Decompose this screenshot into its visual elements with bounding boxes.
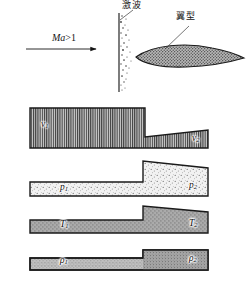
density-upstream-label: ρ1	[60, 256, 68, 266]
temperature-downstream-label: T2	[189, 219, 198, 229]
shock-wave-stipple	[120, 15, 131, 90]
airfoil-label: 翼型	[176, 12, 196, 21]
temperature-profile-panel	[30, 206, 208, 233]
pressure-subscript-2: 2	[194, 183, 197, 190]
velocity-subscript-1: 1	[45, 122, 48, 129]
temperature-upstream-label: T1	[60, 220, 69, 230]
velocity-upstream-label: v1	[41, 120, 48, 130]
velocity-profile-panel	[30, 108, 208, 148]
mach-number-inequality: >1	[65, 32, 76, 43]
density-subscript-1: 1	[65, 258, 68, 265]
shock-wave-label: 激波	[122, 1, 142, 10]
mach-number-label: Ma>1	[52, 33, 76, 43]
airfoil-shape	[136, 45, 244, 67]
pressure-upstream-label: p1	[60, 183, 68, 193]
velocity-downstream-label: v2	[192, 134, 199, 144]
pressure-downstream-label: p2	[189, 181, 197, 191]
density-subscript-2: 2	[194, 256, 197, 263]
shock-wave-leader-line	[120, 10, 133, 20]
pressure-profile-panel	[30, 161, 208, 196]
shock-wave-property-figure	[0, 0, 252, 291]
pressure-subscript-1: 1	[65, 185, 68, 192]
shock-wave-line	[119, 13, 132, 92]
velocity-subscript-2: 2	[196, 136, 199, 143]
density-profile-panel	[30, 250, 208, 270]
density-downstream-label: ρ2	[189, 254, 197, 264]
mach-number-symbol: Ma	[52, 32, 65, 43]
temperature-subscript-1: 1	[65, 222, 68, 229]
flow-scene	[26, 10, 244, 92]
temperature-subscript-2: 2	[194, 221, 197, 228]
